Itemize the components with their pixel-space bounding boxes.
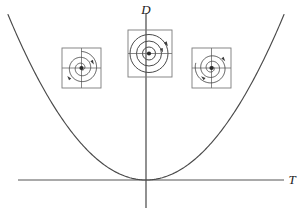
d-axis-label: D — [140, 2, 151, 17]
inset-stable-spiral — [62, 48, 101, 88]
trace-determinant-diagram: D T — [0, 0, 307, 219]
diagram-canvas: D T — [0, 0, 307, 219]
inset-center-fixed-point — [147, 51, 151, 55]
inset-left-arrowhead-lower — [67, 76, 71, 80]
inset-unstable-spiral — [192, 48, 231, 88]
inset-right-fixed-point — [209, 66, 213, 70]
inset-center-orbits — [128, 30, 172, 77]
t-axis-label: T — [288, 172, 296, 187]
inset-left-fixed-point — [79, 66, 83, 70]
inset-left-arrowhead-upper — [90, 60, 94, 65]
